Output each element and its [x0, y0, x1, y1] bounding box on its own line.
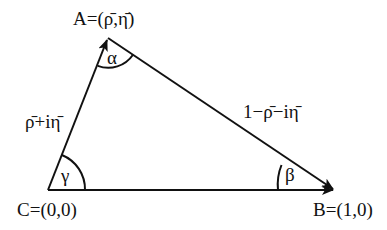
side-CA-label: ρ̄+iη̄: [25, 111, 63, 132]
vertex-A-label: A=(ρ̄,η̄): [73, 8, 134, 30]
unitarity-triangle-diagram: A=(ρ̄,η̄) B=(1,0) C=(0,0) ρ̄+iη̄ 1−ρ̄−iη…: [0, 0, 387, 230]
angle-beta-arc: [278, 165, 282, 190]
vertex-B-label: B=(1,0): [313, 199, 373, 221]
side-AB-label: 1−ρ̄−iη̄: [243, 101, 302, 122]
angle-beta-symbol: β: [285, 164, 295, 185]
angle-gamma-symbol: γ: [60, 165, 69, 186]
angle-alpha-symbol: α: [107, 47, 117, 68]
vertex-C-label: C=(0,0): [17, 199, 77, 221]
side-AB-arrow: [108, 38, 333, 189]
